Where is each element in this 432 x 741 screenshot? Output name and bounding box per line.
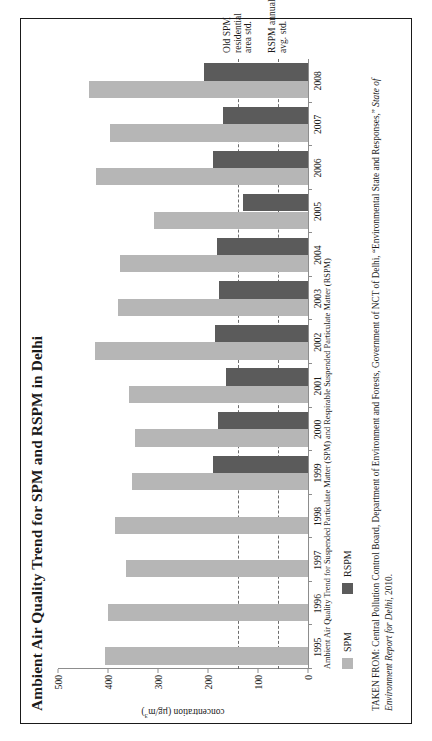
bar-rspm-2005 [243, 194, 309, 211]
bar-spm-2002 [95, 342, 309, 359]
source-note-prefix: TAKEN FROM: Central Pollution Control Bo… [371, 107, 381, 711]
figure-page: Ambient Air Quality Trend for SPM and RS… [0, 0, 432, 741]
y-tick-label: 400 [103, 675, 114, 689]
x-tick-mark [308, 363, 312, 364]
bar-spm-2000 [135, 429, 309, 446]
x-tick-mark [308, 407, 312, 408]
y-tick-label: 100 [253, 675, 264, 689]
bar-spm-2006 [96, 168, 309, 185]
bar-spm-2008 [89, 81, 308, 98]
x-tick-mark [308, 624, 312, 625]
bar-spm-1997 [126, 560, 309, 577]
x-tick-mark [308, 537, 312, 538]
x-tick-mark [308, 450, 312, 451]
figure-title: Ambient Air Quality Trend for SPM and RS… [28, 111, 46, 711]
chart-legend: SPM RSPM [342, 550, 353, 669]
y-tick-mark [58, 669, 59, 673]
y-tick-mark [258, 669, 259, 673]
rotated-figure-stage: Ambient Air Quality Trend for SPM and RS… [22, 21, 410, 721]
source-note: TAKEN FROM: Central Pollution Control Bo… [370, 43, 395, 711]
y-tick-label: 200 [203, 675, 214, 689]
x-tick-mark [308, 276, 312, 277]
legend-item-rspm: RSPM [342, 550, 353, 594]
x-tick-mark [308, 189, 312, 190]
source-note-suffix: , 2010. [384, 574, 394, 600]
bar-spm-2001 [129, 386, 308, 403]
y-axis-line [58, 668, 308, 669]
chart-sub-caption: Ambient Air Quality Trend for Suspended … [322, 49, 333, 669]
chart-plot-area: concentration (µg/m3) 0100200300400500 1… [58, 59, 308, 669]
reference-label-rspm-std: RSPM annualavg. std. [267, 0, 288, 53]
x-tick-mark [308, 102, 312, 103]
bar-rspm-2007 [223, 107, 309, 124]
bar-rspm-2001 [226, 368, 308, 385]
y-tick-mark [108, 669, 109, 673]
x-tick-mark [308, 494, 312, 495]
bar-rspm-2002 [215, 325, 308, 342]
x-tick-mark [308, 668, 312, 669]
y-tick-mark [208, 669, 209, 673]
legend-label-rspm: RSPM [342, 550, 353, 577]
bar-spm-1996 [108, 604, 308, 621]
legend-item-spm: SPM [342, 632, 353, 669]
bar-rspm-2006 [213, 151, 309, 168]
y-tick-label: 0 [303, 675, 314, 680]
y-axis-title: concentration (µg/m3) [141, 707, 224, 719]
y-tick-mark [158, 669, 159, 673]
bar-rspm-2000 [218, 412, 308, 429]
x-tick-mark [308, 319, 312, 320]
y-tick-mark [308, 669, 309, 673]
chart-plot-inner: concentration (µg/m3) 0100200300400500 1… [58, 59, 308, 669]
y-tick-label: 300 [153, 675, 164, 689]
y-tick-label: 500 [53, 675, 64, 689]
x-tick-mark [308, 581, 312, 582]
bar-rspm-2008 [204, 63, 308, 80]
bar-spm-2005 [154, 212, 309, 229]
bar-spm-1999 [132, 473, 308, 490]
bar-spm-2007 [110, 124, 308, 141]
x-axis-line [308, 59, 309, 669]
legend-swatch-spm-icon [342, 658, 353, 669]
bar-spm-1995 [105, 647, 309, 664]
bar-rspm-2004 [217, 238, 309, 255]
x-tick-mark [308, 232, 312, 233]
legend-label-spm: SPM [342, 632, 353, 652]
figure-frame: Ambient Air Quality Trend for SPM and RS… [20, 18, 412, 724]
bar-spm-1998 [115, 517, 309, 534]
bar-rspm-2003 [219, 281, 308, 298]
x-tick-mark [308, 145, 312, 146]
legend-swatch-rspm-icon [342, 583, 353, 594]
reference-label-spm-std: Old SPMresidentialarea std. [222, 13, 254, 53]
bar-rspm-1999 [213, 456, 308, 473]
bar-spm-2004 [120, 255, 309, 272]
bar-spm-2003 [118, 299, 308, 316]
